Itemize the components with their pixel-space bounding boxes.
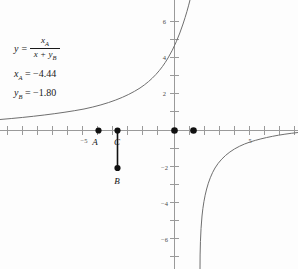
- denominator-plus: +: [40, 49, 46, 59]
- point-label-b: B: [114, 176, 120, 186]
- parameter-subscript-yb: B: [18, 93, 22, 100]
- curve-right-branch: [200, 133, 298, 269]
- denominator-subscript: B: [52, 54, 56, 61]
- numerator-subscript: A: [45, 40, 49, 47]
- point-label-a: A: [91, 137, 98, 147]
- point-c[interactable]: [114, 127, 120, 133]
- parameter-equals-yb: =: [25, 87, 31, 98]
- y-tick-label-2: 2: [163, 90, 166, 97]
- parameter-equals-xa: =: [25, 68, 31, 79]
- x-tick-label-minus5: −5: [81, 137, 88, 144]
- denominator-x: x: [34, 49, 38, 59]
- point-unlabeled-right[interactable]: [190, 127, 197, 134]
- point-label-c: C: [114, 137, 121, 147]
- y-tick-label-4: 4: [163, 54, 167, 61]
- y-tick-label-minus6: −6: [161, 236, 169, 243]
- point-a[interactable]: [95, 127, 101, 133]
- parameter-row-xa: xA = −4.44: [14, 69, 110, 82]
- y-tick-label-minus2: −2: [161, 164, 168, 171]
- equation-row: y = xA x + yB: [14, 36, 110, 62]
- y-tick-label-6: 6: [163, 18, 167, 25]
- parameter-value-xa[interactable]: −4.44: [33, 68, 56, 79]
- fraction-numerator: xA: [38, 36, 52, 48]
- point-b[interactable]: [114, 165, 120, 171]
- equation-lhs: y: [14, 44, 18, 55]
- graph-figure: 6 4 2 −2 −4 −6 −5 5 A C B y = xA: [0, 0, 298, 269]
- parameter-value-yb[interactable]: −1.80: [33, 87, 56, 98]
- equation-equals-sign: =: [21, 44, 27, 55]
- parameter-row-yb: yB = −1.80: [14, 88, 110, 101]
- y-tick-label-minus4: −4: [161, 200, 169, 207]
- formula-panel: y = xA x + yB xA = −4.44 yB = −1.80: [14, 36, 110, 108]
- fraction-denominator: x + yB: [31, 49, 60, 61]
- point-origin[interactable]: [171, 127, 178, 134]
- parameter-subscript-xa: A: [18, 74, 22, 81]
- x-tick-label-5: 5: [248, 137, 251, 144]
- equation-fraction: xA x + yB: [30, 36, 60, 62]
